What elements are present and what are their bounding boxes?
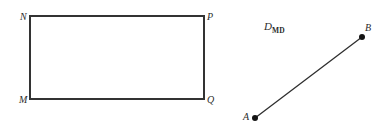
segment-ab-line <box>255 37 362 118</box>
figure-canvas <box>0 0 388 136</box>
vertex-label-m: M <box>19 95 27 105</box>
segment-figure <box>252 34 365 121</box>
distance-caption-subscript: MD <box>272 26 285 35</box>
point-label-a: A <box>243 112 249 122</box>
figure-page: N P M Q A B DMD <box>0 0 388 136</box>
vertex-label-q: Q <box>207 95 214 105</box>
distance-caption-base: D <box>264 20 272 32</box>
point-label-b: B <box>365 23 371 33</box>
vertex-label-p: P <box>207 12 213 22</box>
vertex-label-n: N <box>20 12 27 22</box>
rectangle-mnpq <box>30 16 204 99</box>
point-a-dot <box>252 115 258 121</box>
rectangle-figure <box>30 16 204 99</box>
distance-caption: DMD <box>264 21 285 35</box>
point-b-dot <box>359 34 365 40</box>
